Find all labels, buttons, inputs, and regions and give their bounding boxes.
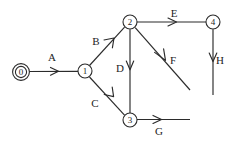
edge-label-g: G bbox=[155, 125, 163, 137]
diagram-canvas: A B C D E F bbox=[0, 0, 239, 145]
node-2-label: 2 bbox=[128, 17, 133, 27]
node-4[interactable]: 4 bbox=[206, 15, 220, 29]
edge-label-f: F bbox=[170, 54, 176, 66]
edge-label-c: C bbox=[91, 97, 98, 109]
edge-f-arrowhead bbox=[155, 49, 166, 61]
node-0[interactable]: 0 bbox=[13, 64, 30, 81]
node-3-label: 3 bbox=[128, 115, 133, 125]
node-0-label: 0 bbox=[19, 67, 24, 77]
edge-c-arrowhead bbox=[104, 87, 113, 97]
edge-b-arrowhead bbox=[104, 38, 114, 48]
network-diagram-svg: A B C D E F bbox=[0, 0, 239, 145]
node-2[interactable]: 2 bbox=[123, 15, 137, 29]
node-3[interactable]: 3 bbox=[123, 113, 137, 127]
node-1[interactable]: 1 bbox=[78, 64, 92, 78]
edge-h: H bbox=[209, 29, 224, 95]
edge-label-h: H bbox=[216, 54, 224, 66]
edge-e: E bbox=[137, 7, 206, 26]
edge-label-d: D bbox=[116, 62, 124, 74]
node-4-label: 4 bbox=[211, 17, 216, 27]
edge-label-a: A bbox=[48, 51, 56, 63]
edge-f: F bbox=[135, 28, 190, 90]
edge-label-e: E bbox=[171, 7, 178, 19]
edge-a: A bbox=[28, 51, 79, 75]
edge-d: D bbox=[116, 29, 134, 113]
edge-b: B bbox=[90, 27, 125, 65]
edge-c: C bbox=[90, 77, 125, 115]
edge-label-b: B bbox=[92, 35, 99, 47]
edge-g: G bbox=[137, 115, 190, 137]
node-1-label: 1 bbox=[83, 66, 88, 76]
